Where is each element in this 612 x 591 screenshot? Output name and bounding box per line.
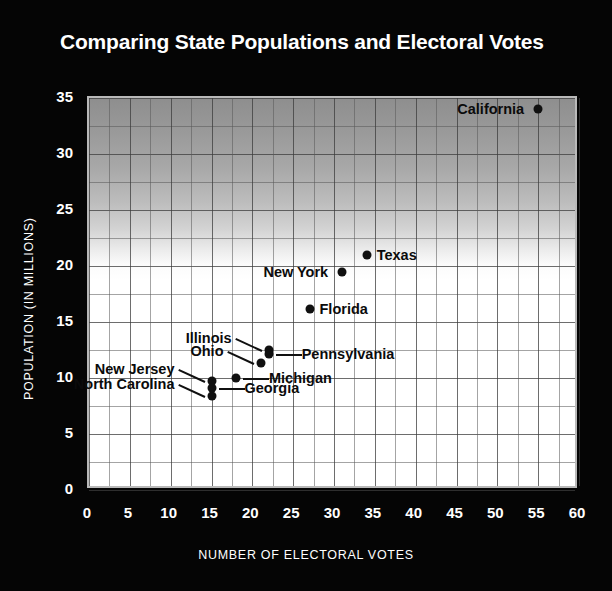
data-point[interactable] bbox=[305, 304, 314, 313]
gridline-h bbox=[89, 210, 575, 211]
y-tick-label: 20 bbox=[33, 256, 73, 273]
gridline-v bbox=[497, 98, 498, 486]
y-tick-label: 25 bbox=[33, 200, 73, 217]
x-tick-label: 55 bbox=[516, 504, 556, 521]
gridline-v bbox=[477, 98, 478, 486]
gridline-v bbox=[89, 98, 90, 486]
data-point[interactable] bbox=[534, 105, 543, 114]
data-point[interactable] bbox=[207, 391, 216, 400]
chart-figure: Comparing State Populations and Electora… bbox=[0, 0, 612, 591]
gridline-v bbox=[191, 98, 192, 486]
point-label: Florida bbox=[320, 301, 368, 317]
x-tick-label: 25 bbox=[271, 504, 311, 521]
gridline-v bbox=[354, 98, 355, 486]
chart-title: Comparing State Populations and Electora… bbox=[60, 30, 544, 54]
gridline-v bbox=[579, 98, 580, 486]
gridline-v bbox=[130, 98, 131, 486]
gridline-h bbox=[89, 462, 575, 463]
gridline-v bbox=[395, 98, 396, 486]
data-point[interactable] bbox=[338, 267, 347, 276]
x-tick-label: 30 bbox=[312, 504, 352, 521]
gridline-h bbox=[89, 238, 575, 239]
point-label: North Carolina bbox=[74, 376, 175, 392]
gridline-h bbox=[89, 294, 575, 295]
gridline-v bbox=[293, 98, 294, 486]
point-label: California bbox=[457, 101, 524, 117]
gridline-v bbox=[212, 98, 213, 486]
x-tick-label: 45 bbox=[435, 504, 475, 521]
gridlines bbox=[89, 98, 575, 486]
gridline-h bbox=[89, 322, 575, 323]
y-tick-label: 0 bbox=[33, 480, 73, 497]
data-point[interactable] bbox=[256, 359, 265, 368]
leader-line bbox=[276, 354, 302, 356]
point-label: Pennsylvania bbox=[302, 346, 395, 362]
gridline-h bbox=[89, 266, 575, 267]
gridline-v bbox=[273, 98, 274, 486]
gridline-v bbox=[538, 98, 539, 486]
gridline-v bbox=[252, 98, 253, 486]
x-tick-label: 20 bbox=[230, 504, 270, 521]
y-tick-label: 35 bbox=[33, 88, 73, 105]
gridline-h bbox=[89, 154, 575, 155]
y-tick-label: 30 bbox=[33, 144, 73, 161]
x-tick-label: 15 bbox=[190, 504, 230, 521]
gridline-v bbox=[334, 98, 335, 486]
gridline-v bbox=[457, 98, 458, 486]
gridline-v bbox=[314, 98, 315, 486]
gridline-h bbox=[89, 98, 575, 99]
y-tick-label: 10 bbox=[33, 368, 73, 385]
gridline-v bbox=[518, 98, 519, 486]
gridline-h bbox=[89, 406, 575, 407]
gridline-h bbox=[89, 126, 575, 127]
y-axis-title: POPULATION (IN MILLIONS) bbox=[22, 217, 36, 400]
x-axis-title: NUMBER OF ELECTORAL VOTES bbox=[0, 548, 612, 562]
data-point[interactable] bbox=[264, 350, 273, 359]
y-tick-label: 15 bbox=[33, 312, 73, 329]
gridline-v bbox=[416, 98, 417, 486]
x-tick-label: 5 bbox=[108, 504, 148, 521]
x-tick-label: 0 bbox=[67, 504, 107, 521]
gridline-h bbox=[89, 182, 575, 183]
x-tick-label: 35 bbox=[353, 504, 393, 521]
data-point[interactable] bbox=[362, 250, 371, 259]
data-point[interactable] bbox=[232, 374, 241, 383]
gridline-h bbox=[89, 434, 575, 435]
gridline-v bbox=[436, 98, 437, 486]
point-label: Texas bbox=[377, 247, 417, 263]
gridline-v bbox=[232, 98, 233, 486]
x-tick-label: 40 bbox=[394, 504, 434, 521]
gridline-v bbox=[171, 98, 172, 486]
point-label: New York bbox=[263, 264, 328, 280]
gridline-v bbox=[559, 98, 560, 486]
gridline-h bbox=[89, 490, 575, 491]
x-tick-label: 10 bbox=[149, 504, 189, 521]
gridline-v bbox=[375, 98, 376, 486]
point-label: Georgia bbox=[245, 380, 300, 396]
y-tick-label: 5 bbox=[33, 424, 73, 441]
x-tick-label: 60 bbox=[557, 504, 597, 521]
point-label: Ohio bbox=[190, 343, 223, 359]
gridline-v bbox=[150, 98, 151, 486]
leader-line bbox=[219, 388, 245, 390]
gridline-v bbox=[109, 98, 110, 486]
plot-area: CaliforniaTexasNew YorkFloridaIllinoisPe… bbox=[87, 96, 577, 488]
x-tick-label: 50 bbox=[475, 504, 515, 521]
